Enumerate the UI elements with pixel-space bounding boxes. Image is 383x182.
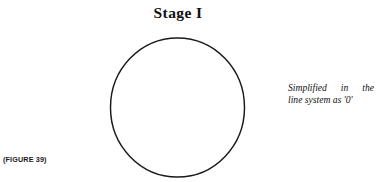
annotation-note: Simplified in the line system as '0' bbox=[288, 82, 374, 105]
annotation-line-1: Simplified in the bbox=[288, 82, 374, 94]
annotation-line-2: line system as '0' bbox=[288, 94, 374, 106]
figure-page: Stage I Simplified in the line system as… bbox=[0, 0, 383, 182]
figure-caption: (FIGURE 39) bbox=[3, 155, 47, 165]
circle-icon bbox=[111, 38, 245, 177]
